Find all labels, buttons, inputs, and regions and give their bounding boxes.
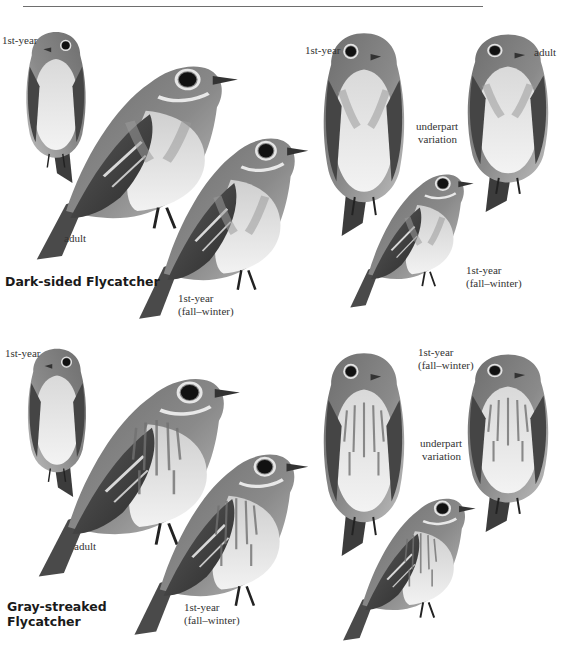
species-name-gray-streaked-line2: Flycatcher xyxy=(7,614,81,629)
label-first-year-fall-line2: (fall–winter) xyxy=(178,305,234,318)
label-right-first-year-fall-line1: 1st-year xyxy=(466,264,501,277)
bird-gray-streaked-front-1st-year-fall xyxy=(332,478,477,643)
header-rule xyxy=(23,6,483,7)
label-first-year-fall-line1: 1st-year xyxy=(178,292,213,305)
label-underpart-line1: underpart xyxy=(416,120,458,133)
label-gs-right-first-year-fall-line1: 1st-year xyxy=(418,346,453,359)
label-right-adult: adult xyxy=(534,46,556,59)
label-right-first-year-fall-line2: (fall–winter) xyxy=(466,277,522,290)
label-gs-first-year-fall-line2: (fall–winter) xyxy=(184,614,240,627)
bird-dark-sided-front-1st-year-fall xyxy=(340,155,475,310)
label-gs-underpart-line2: variation xyxy=(422,450,461,463)
field-guide-page: 1st-year adult 1st-year (fall–winter) Da… xyxy=(0,0,578,647)
label-underpart-line2: variation xyxy=(418,133,457,146)
label-gs-underpart-line1: underpart xyxy=(420,437,462,450)
label-gs-first-year-fall-line1: 1st-year xyxy=(184,601,219,614)
species-name-gray-streaked-line1: Gray-streaked xyxy=(7,599,107,614)
label-gs-adult: adult xyxy=(74,540,96,553)
label-adult: adult xyxy=(64,232,86,245)
species-name-dark-sided-flycatcher: Dark-sided Flycatcher xyxy=(5,274,160,289)
label-right-first-year: 1st-year xyxy=(305,44,340,57)
bird-dark-sided-1st-year-fall xyxy=(125,112,310,322)
